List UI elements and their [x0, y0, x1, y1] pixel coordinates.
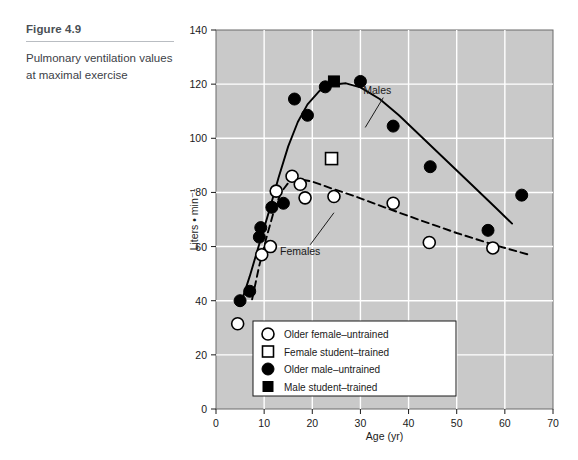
legend-marker-filled-circle [262, 363, 274, 375]
legend-marker-open-square [263, 346, 274, 357]
y-tick-label: 20 [195, 349, 207, 361]
data-point-filled-circle [482, 224, 494, 236]
data-point-filled-circle [516, 189, 528, 201]
figure-page: Figure 4.9 Pulmonary ventilation values … [0, 0, 578, 460]
y-tick-label: 120 [189, 78, 207, 90]
data-point-filled-circle [301, 109, 313, 121]
legend-label: Older male–untrained [284, 364, 380, 375]
annotation-males: Males [363, 84, 391, 96]
legend-marker-filled-square [263, 382, 273, 392]
y-tick-label: 100 [189, 132, 207, 144]
data-point-open-square [326, 153, 338, 165]
data-point-open-circle [299, 192, 311, 204]
data-point-filled-square [328, 76, 339, 87]
data-point-filled-circle [266, 201, 278, 213]
data-point-filled-circle [424, 161, 436, 173]
data-point-open-circle [264, 241, 276, 253]
x-tick-label: 60 [499, 417, 511, 429]
data-point-open-circle [487, 242, 499, 254]
y-tick-label: 140 [189, 24, 207, 36]
data-point-open-circle [294, 178, 306, 190]
x-tick-label: 30 [355, 417, 367, 429]
data-point-filled-circle [244, 285, 256, 297]
data-point-open-circle [387, 197, 399, 209]
x-axis-label: Age (yr) [366, 430, 403, 442]
data-point-filled-circle [387, 120, 399, 132]
y-axis-label: Liters • min⁻¹ [188, 188, 200, 250]
x-axis-ticks: 010203040506070 [213, 409, 559, 429]
x-tick-label: 10 [258, 417, 270, 429]
x-tick-label: 40 [403, 417, 415, 429]
legend-label: Older female–untrained [284, 329, 389, 340]
chart-figure: MalesFemales 020406080100120140 01020304… [0, 0, 578, 460]
legend-label: Female student–trained [284, 347, 389, 358]
data-point-filled-circle [288, 93, 300, 105]
pulmonary-ventilation-scatter-chart: MalesFemales 020406080100120140 01020304… [0, 0, 578, 460]
y-tick-label: 40 [195, 295, 207, 307]
x-tick-label: 50 [451, 417, 463, 429]
annotation-females: Females [280, 245, 320, 257]
legend-label: Male student–trained [284, 382, 377, 393]
data-point-open-circle [270, 185, 282, 197]
data-point-open-circle [328, 190, 340, 202]
data-point-filled-circle [277, 197, 289, 209]
data-point-filled-circle [255, 222, 267, 234]
data-point-open-circle [232, 318, 244, 330]
data-point-open-circle [423, 237, 435, 249]
x-tick-label: 70 [547, 417, 559, 429]
legend-marker-open-circle [262, 328, 274, 340]
chart-legend: Older female–untrainedFemale student–tra… [253, 321, 456, 396]
x-tick-label: 0 [213, 417, 219, 429]
y-tick-label: 0 [201, 403, 207, 415]
x-tick-label: 20 [306, 417, 318, 429]
data-point-filled-circle [234, 295, 246, 307]
